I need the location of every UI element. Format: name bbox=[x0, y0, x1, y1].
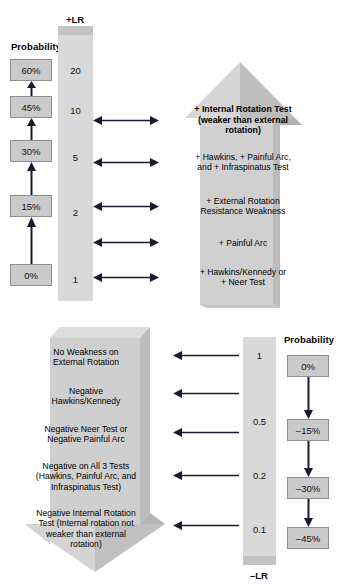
upper-connector-arrow-30-to-45 bbox=[26, 118, 37, 140]
upper-probability-box-30: 30% bbox=[10, 140, 52, 162]
upper-test-label-4: + Painful Arc bbox=[174, 238, 312, 248]
negative-lr-tick-1: 1 bbox=[243, 350, 276, 361]
positive-lr-tick-10: 10 bbox=[58, 105, 93, 116]
upper-test-label-3: + External RotationResistance Weakness bbox=[174, 196, 312, 217]
lower-test-label-5: Negative Internal RotationTest (Internal… bbox=[10, 508, 162, 550]
upper-probability-box-15: 15% bbox=[10, 195, 52, 217]
positive-lr-bar-cap bbox=[58, 26, 93, 35]
positive-lr-label: +LR bbox=[52, 14, 98, 25]
lower-test-label-1: No Weakness onExternal Rotation bbox=[20, 347, 152, 368]
upper-connector-arrow-15-to-30 bbox=[26, 162, 37, 195]
upper-test-label-1: + Internal Rotation Test(weaker than ext… bbox=[168, 104, 318, 136]
negative-lr-bar-foot bbox=[243, 556, 276, 565]
negative-lr-tick-0-2: 0.2 bbox=[243, 470, 276, 481]
upper-link-arrow-4 bbox=[93, 237, 159, 248]
positive-lr-tick-2: 2 bbox=[58, 207, 93, 218]
lower-test-label-4: Negative on All 3 Tests(Hawkins, Painful… bbox=[12, 461, 160, 492]
lower-link-arrow-2 bbox=[173, 388, 239, 399]
upper-test-label-2: + Hawkins, + Painful Arc,and + Infraspin… bbox=[172, 152, 314, 173]
lower-probability-box-neg15: –15% bbox=[287, 419, 329, 441]
lower-link-arrow-1 bbox=[173, 350, 239, 361]
lower-link-arrow-5 bbox=[173, 520, 239, 531]
negative-lr-label: –LR bbox=[236, 570, 282, 581]
positive-lr-tick-20: 20 bbox=[58, 65, 93, 76]
lower-probability-box-neg30: –30% bbox=[287, 477, 329, 499]
figure-canvas: Probability +LR 20 10 5 2 1 60% 45% 30% … bbox=[0, 0, 339, 587]
clipped-caption-remnant bbox=[0, 0, 339, 7]
negative-lr-scale-bar: 1 0.5 0.2 0.1 bbox=[243, 337, 276, 565]
lower-link-arrow-4 bbox=[173, 470, 239, 481]
upper-link-arrow-5 bbox=[93, 272, 159, 283]
upper-connector-arrow-0-to-15 bbox=[26, 217, 37, 264]
lower-connector-arrow-neg30-to-neg45 bbox=[303, 499, 314, 527]
lower-test-label-2: NegativeHawkins/Kennedy bbox=[20, 386, 152, 407]
lower-probability-box-0: 0% bbox=[287, 355, 329, 377]
upper-probability-box-60: 60% bbox=[10, 59, 52, 81]
upper-probability-box-45: 45% bbox=[10, 96, 52, 118]
upper-link-arrow-2 bbox=[93, 157, 159, 168]
negative-lr-tick-0-5: 0.5 bbox=[243, 416, 276, 427]
upper-connector-arrow-45-to-60 bbox=[26, 81, 37, 96]
upper-probability-box-0: 0% bbox=[10, 264, 52, 286]
positive-lr-tick-5: 5 bbox=[58, 152, 93, 163]
lower-test-label-3: Negative Neer Test orNegative Painful Ar… bbox=[15, 424, 157, 445]
upper-link-arrow-1 bbox=[93, 115, 159, 126]
upper-link-arrow-3 bbox=[93, 201, 159, 212]
upper-test-label-5: + Hawkins/Kennedy or+ Neer Test bbox=[172, 267, 314, 288]
lower-connector-arrow-0-to-neg15 bbox=[303, 377, 314, 419]
positive-lr-scale-bar: 20 10 5 2 1 bbox=[58, 26, 93, 301]
lower-link-arrow-3 bbox=[173, 427, 239, 438]
lower-probability-box-neg45: –45% bbox=[287, 527, 329, 549]
positive-lr-tick-1: 1 bbox=[58, 274, 93, 285]
lower-probability-heading: Probability bbox=[280, 334, 338, 345]
lower-connector-arrow-neg15-to-neg30 bbox=[303, 441, 314, 477]
negative-lr-tick-0-1: 0.1 bbox=[243, 524, 276, 535]
